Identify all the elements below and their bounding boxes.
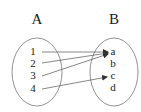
- set-b-element-a: a: [111, 45, 116, 57]
- set-b-title: B: [109, 11, 119, 27]
- set-a-element-3: 3: [30, 69, 36, 81]
- set-a-element-1: 1: [30, 45, 36, 57]
- set-a-element-4: 4: [30, 82, 36, 94]
- set-a-title: A: [32, 11, 43, 27]
- mapping-diagram: A B 1 2 3 4 a b c d: [0, 0, 141, 112]
- set-b-element-d: d: [110, 81, 116, 93]
- set-b-element-b: b: [110, 57, 116, 69]
- set-b-element-c: c: [111, 69, 116, 81]
- set-a-element-2: 2: [30, 57, 36, 69]
- arrow-4-to-c: [42, 77, 107, 89]
- arrow-3-to-a: [42, 54, 108, 76]
- arrow-2-to-a: [42, 53, 108, 63]
